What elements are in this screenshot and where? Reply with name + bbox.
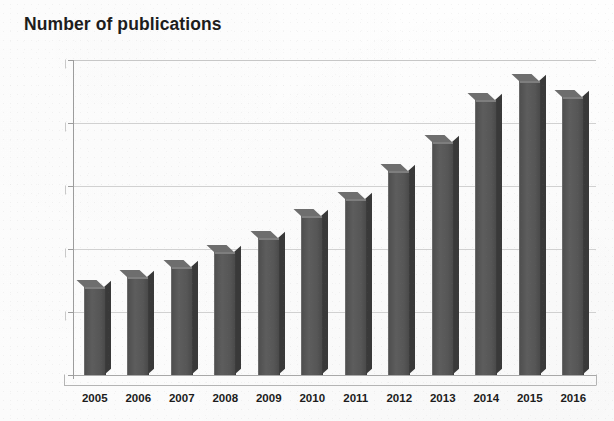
bar-top-3d-face xyxy=(337,192,365,199)
bar-front-face xyxy=(214,252,236,375)
bar-top-3d-face xyxy=(120,270,148,277)
plot-area: 05001000150020002500 2005200620072008200… xyxy=(74,60,596,379)
bar-2016[interactable] xyxy=(562,97,582,375)
bar-top-face xyxy=(128,277,148,279)
x-axis-tick-label: 2010 xyxy=(299,392,325,404)
chart-page: Number of publications 05001000150020002… xyxy=(0,0,614,421)
bar-front-face xyxy=(301,216,323,375)
x-axis-tick-label: 2005 xyxy=(82,392,108,404)
x-axis-tick-label: 2016 xyxy=(560,392,586,404)
bar-top-3d-face xyxy=(424,135,452,142)
bar-2010[interactable] xyxy=(301,216,321,375)
bar-front-face xyxy=(127,277,149,375)
bar-2015[interactable] xyxy=(519,81,539,375)
bar-2008[interactable] xyxy=(214,252,234,375)
page-title: Number of publications xyxy=(24,14,222,35)
bar-2005[interactable] xyxy=(84,287,104,375)
bar-top-face xyxy=(85,287,105,289)
bar-2014[interactable] xyxy=(475,100,495,375)
baseline xyxy=(74,375,596,376)
bar-top-face xyxy=(302,216,322,218)
x-axis-tick-label: 2008 xyxy=(212,392,238,404)
bar-top-3d-face xyxy=(163,260,191,267)
bar-top-3d-face xyxy=(294,209,322,216)
x-axis-tick-label: 2011 xyxy=(343,392,368,404)
x-axis-tick-label: 2006 xyxy=(125,392,151,404)
bar-top-face xyxy=(476,100,496,102)
bar-2006[interactable] xyxy=(127,277,147,375)
bar-2011[interactable] xyxy=(345,199,365,375)
bar-top-face xyxy=(520,81,540,83)
bar-front-face xyxy=(432,142,454,375)
x-axis-tick-label: 2007 xyxy=(169,392,195,404)
bar-2013[interactable] xyxy=(432,142,452,375)
x-axis-tick-label: 2015 xyxy=(517,392,543,404)
bar-front-face xyxy=(475,100,497,375)
bar-2007[interactable] xyxy=(171,267,191,375)
bar-top-3d-face xyxy=(250,231,278,238)
bar-2012[interactable] xyxy=(388,171,408,375)
bar-front-face xyxy=(388,171,410,375)
floor-front-edge xyxy=(64,385,596,386)
bar-2009[interactable] xyxy=(258,238,278,375)
bar-front-face xyxy=(519,81,541,375)
bar-top-3d-face xyxy=(207,245,235,252)
bar-top-3d-face xyxy=(76,280,104,287)
bar-top-face xyxy=(389,171,409,173)
bar-front-face xyxy=(171,267,193,375)
bar-top-face xyxy=(433,142,453,144)
bar-top-3d-face xyxy=(555,90,583,97)
bar-front-face xyxy=(84,287,106,375)
x-axis-tick-label: 2012 xyxy=(386,392,412,404)
bar-top-3d-face xyxy=(468,93,496,100)
x-axis-tick-label: 2013 xyxy=(430,392,456,404)
bar-front-face xyxy=(258,238,280,375)
bar-top-3d-face xyxy=(381,164,409,171)
x-axis-tick-label: 2014 xyxy=(473,392,499,404)
x-axis-tick-label: 2009 xyxy=(256,392,282,404)
bar-top-3d-face xyxy=(511,74,539,81)
bar-series xyxy=(74,60,596,375)
bar-front-face xyxy=(345,199,367,375)
bar-front-face xyxy=(562,97,584,375)
